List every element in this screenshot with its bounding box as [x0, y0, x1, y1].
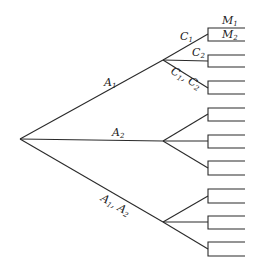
branch-a1-a2	[20, 139, 163, 222]
branch-a1a2-c1c2	[163, 222, 208, 249]
bracket-3	[208, 81, 245, 94]
label-m1: M1	[221, 14, 238, 28]
bracket-2	[208, 55, 245, 67]
branch-a1a2-c1	[163, 196, 208, 222]
branch-a2-c1c2	[163, 141, 208, 168]
decision-tree-diagram: A1 A2 A1, A2 C1 C2 C1, C2 M1 M2	[0, 0, 257, 272]
bracket-5	[208, 135, 245, 148]
branch-a1	[20, 60, 163, 139]
bracket-8	[208, 216, 245, 229]
bracket-6	[208, 161, 245, 175]
label-a1-a2: A1, A2	[97, 191, 133, 220]
branch-a2-c1	[163, 114, 208, 141]
label-m2: M2	[221, 28, 238, 42]
label-a1: A1	[103, 76, 116, 90]
leaf-brackets	[208, 28, 245, 256]
label-c2: C2	[192, 46, 205, 60]
bracket-4	[208, 108, 245, 121]
label-a2: A2	[111, 126, 125, 140]
label-c1: C1	[180, 30, 193, 44]
branch-a2	[20, 139, 163, 141]
branch-a1-c2	[163, 60, 208, 61]
label-c1-c2: C1, C2	[168, 64, 204, 93]
bracket-9	[208, 242, 245, 256]
bracket-7	[208, 189, 245, 203]
